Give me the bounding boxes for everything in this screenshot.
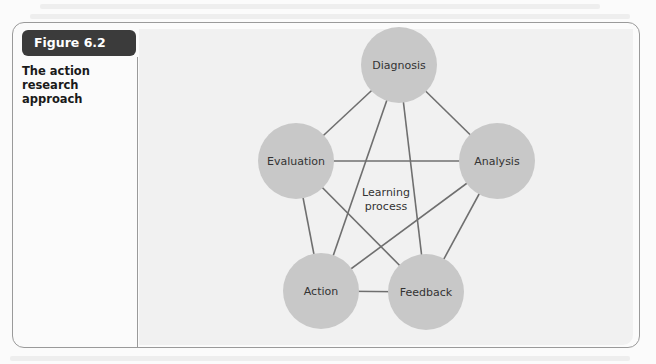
node-label-analysis: Analysis (474, 155, 520, 168)
center-label-line-1: Learning (362, 186, 410, 199)
node-evaluation: Evaluation (258, 123, 334, 199)
nodes-group: DiagnosisAnalysisFeedbackActionEvaluatio… (258, 27, 535, 330)
node-analysis: Analysis (459, 123, 535, 199)
node-label-action: Action (304, 285, 338, 298)
center-label-line-2: process (365, 200, 408, 213)
action-research-diagram: DiagnosisAnalysisFeedbackActionEvaluatio… (0, 0, 656, 364)
node-feedback: Feedback (388, 254, 464, 330)
node-label-evaluation: Evaluation (267, 155, 325, 168)
node-diagnosis: Diagnosis (361, 27, 437, 103)
node-label-feedback: Feedback (400, 286, 453, 299)
node-action: Action (283, 253, 359, 329)
node-label-diagnosis: Diagnosis (372, 59, 426, 72)
